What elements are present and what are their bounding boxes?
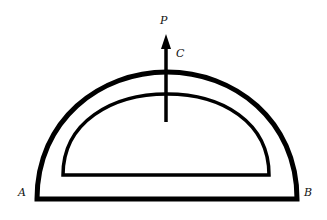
diagram-canvas: P C A B — [0, 0, 327, 220]
label-p: P — [159, 14, 168, 27]
force-arrow-head — [161, 34, 171, 49]
label-b: B — [303, 186, 312, 199]
label-c: C — [176, 47, 185, 60]
label-a: A — [17, 186, 26, 199]
